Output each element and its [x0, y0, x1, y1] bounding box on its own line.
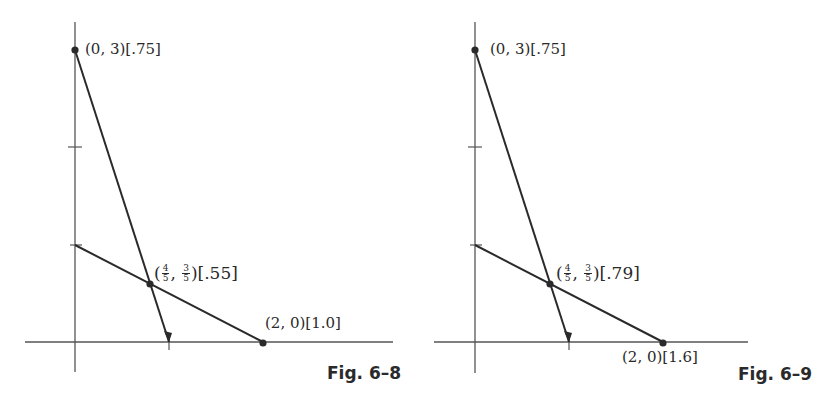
label-suffix: )[.79]	[593, 263, 640, 283]
shallow-line	[75, 245, 263, 342]
label-top-vertex: (0, 3)[.75]	[490, 42, 566, 57]
label-prefix: (	[556, 263, 563, 283]
label-right-vertex: (2, 0)[1.0]	[265, 316, 341, 331]
fraction-y: 35	[584, 264, 592, 283]
fraction-x-denominator: 5	[564, 274, 572, 283]
label-intersection: (45, 35)[.79]	[556, 264, 640, 283]
fraction-x: 45	[564, 264, 572, 283]
label-right-vertex: (2, 0)[1.6]	[622, 350, 698, 365]
label-prefix: (	[154, 263, 161, 283]
fraction-y: 35	[182, 264, 190, 283]
label-intersection: (45, 35)[.55]	[154, 264, 238, 283]
label-top-vertex: (0, 3)[.75]	[85, 42, 161, 57]
steep-line	[75, 50, 169, 342]
point-intersection	[146, 280, 153, 287]
point-right-vertex	[659, 339, 666, 346]
steep-line	[475, 50, 569, 342]
diagram-canvas	[0, 0, 827, 414]
fraction-y-denominator: 5	[182, 274, 190, 283]
point-right-vertex	[259, 339, 266, 346]
label-suffix: )[.55]	[191, 263, 238, 283]
figure-caption: Fig. 6–8	[327, 363, 401, 383]
figure-6-9	[434, 22, 748, 373]
fraction-x: 45	[162, 264, 170, 283]
fraction-x-denominator: 5	[162, 274, 170, 283]
figure-caption: Fig. 6–9	[738, 364, 812, 384]
point-top-vertex	[71, 46, 78, 53]
label-separator: ,	[170, 263, 181, 283]
label-separator: ,	[572, 263, 583, 283]
shallow-line	[475, 245, 663, 342]
point-intersection	[546, 280, 553, 287]
fraction-y-denominator: 5	[584, 274, 592, 283]
point-top-vertex	[471, 46, 478, 53]
